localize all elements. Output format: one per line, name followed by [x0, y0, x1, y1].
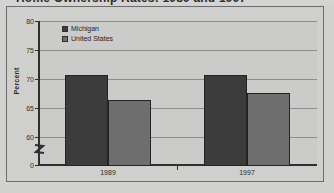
- bar-united-states-1989: [108, 100, 151, 166]
- legend-swatch-united-states-icon: [62, 36, 68, 42]
- ytick-label-60: 60: [26, 134, 34, 141]
- chart-frame: Percent 80 75 70 65 60 0: [6, 6, 324, 182]
- legend-item-michigan: Michigan: [62, 24, 113, 33]
- ytick-label-80: 80: [26, 18, 34, 25]
- y-axis-label: Percent: [13, 67, 20, 94]
- ytick-label-0: 0: [30, 162, 34, 169]
- chart-legend: Michigan United States: [62, 24, 113, 44]
- legend-label-united-states: United States: [71, 34, 113, 43]
- chart-title-strip: Home Ownership Rates: 1989 and 1997: [0, 0, 334, 5]
- legend-item-united-states: United States: [62, 34, 113, 43]
- legend-label-michigan: Michigan: [71, 24, 99, 33]
- ytick-label-70: 70: [26, 76, 34, 83]
- xtick-label-1989: 1989: [100, 169, 116, 176]
- chart-screenshot: Home Ownership Rates: 1989 and 1997 Perc…: [0, 0, 334, 193]
- bar-michigan-1997: [204, 75, 247, 166]
- ytick-label-75: 75: [26, 47, 34, 54]
- xtick-label-1997: 1997: [239, 169, 255, 176]
- ytick-label-65: 65: [26, 105, 34, 112]
- xtick-mark-mid: [177, 166, 178, 170]
- legend-swatch-michigan-icon: [62, 26, 68, 32]
- bar-united-states-1997: [247, 93, 290, 166]
- gridline-80: [38, 21, 317, 22]
- bar-michigan-1989: [65, 75, 108, 166]
- y-axis-line: [38, 21, 40, 166]
- chart-title: Home Ownership Rates: 1989 and 1997: [16, 0, 246, 5]
- gridline-75: [38, 50, 317, 51]
